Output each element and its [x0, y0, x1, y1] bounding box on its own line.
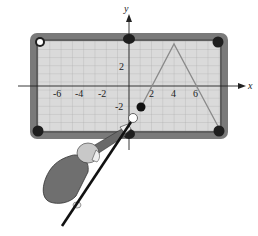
pocket-icon [123, 34, 135, 44]
y-axis-arrow-icon [126, 14, 132, 22]
cue-ball-icon [129, 114, 138, 123]
y-tick-label: -2 [115, 101, 123, 112]
cue-ball-in-pocket-icon [37, 39, 43, 45]
pocket-icon [214, 126, 225, 137]
x-tick-label: -6 [53, 88, 61, 99]
x-axis-arrow-icon [238, 83, 246, 89]
pool-table-diagram: x y -6 -4 -2 2 4 6 2 -2 [0, 0, 258, 236]
x-tick-label: 6 [193, 88, 198, 99]
x-tick-label: -4 [75, 88, 83, 99]
pocket-icon [213, 37, 224, 48]
pocket-icon [33, 126, 44, 137]
x-tick-label: 4 [171, 88, 176, 99]
x-axis-label: x [247, 80, 253, 91]
object-ball-icon [137, 103, 146, 112]
y-tick-label: 2 [119, 61, 124, 72]
x-tick-label: -2 [98, 88, 106, 99]
y-axis-label: y [123, 3, 129, 14]
